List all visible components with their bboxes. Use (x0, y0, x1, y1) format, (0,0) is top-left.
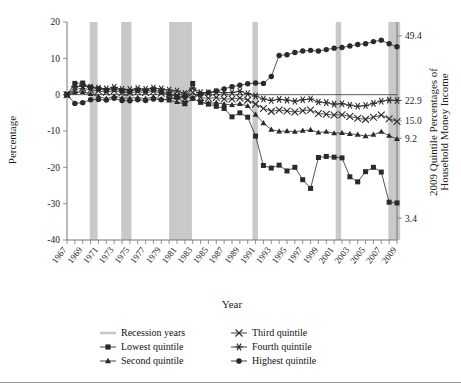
data-point (395, 200, 400, 205)
data-point (261, 163, 266, 168)
y-tick-label: 0 (55, 90, 60, 100)
data-point (355, 179, 360, 184)
data-point (378, 98, 385, 105)
data-point (362, 102, 369, 109)
data-point (245, 81, 250, 86)
data-point (300, 48, 305, 53)
legend-item-fourth-quintile[interactable]: Fourth quintile (231, 341, 312, 352)
data-point (370, 114, 377, 121)
legend-item-highest-quintile[interactable]: Highest quintile (231, 355, 317, 366)
data-point (316, 48, 321, 53)
right-axis-tick-label: 15.0 (405, 116, 422, 126)
data-point (324, 154, 329, 159)
recession-band-1 (90, 22, 98, 240)
data-point (268, 126, 274, 131)
recession-band-6 (388, 22, 400, 240)
data-point (378, 112, 385, 119)
x-tick-label: 1993 (254, 245, 273, 266)
data-point (159, 97, 164, 102)
data-point (339, 45, 344, 50)
x-tick-label: 1979 (144, 245, 163, 266)
data-point (300, 177, 305, 182)
data-point (292, 165, 297, 170)
data-point (307, 96, 314, 103)
y-tick-label: 20 (51, 17, 61, 27)
series-line (67, 83, 397, 203)
data-point (308, 127, 314, 132)
data-point (316, 155, 321, 160)
x-tick-label: 1985 (191, 245, 210, 266)
data-point (260, 105, 267, 112)
legend-label: Lowest quintile (121, 341, 184, 352)
data-point (370, 100, 377, 107)
recession-band-3 (169, 22, 192, 240)
legend-label: Second quintile (121, 355, 184, 366)
legend-marker-asterisk (235, 344, 243, 351)
data-point (324, 47, 329, 52)
x-tick-label: 1981 (160, 245, 179, 265)
y-tick-label: 10 (51, 54, 61, 64)
data-point (354, 103, 361, 110)
data-point (253, 80, 258, 85)
x-tick-label: 1975 (112, 245, 131, 266)
data-point (268, 108, 275, 115)
y-tick-label: -20 (47, 163, 60, 173)
data-point (111, 96, 116, 101)
y-axis-ticks: 20100-10-20-30-40 (47, 17, 67, 245)
data-point (386, 41, 391, 46)
x-axis-title: Year (222, 298, 243, 310)
x-tick-labels: 1967196919711973197519771979198119831985… (50, 245, 399, 266)
data-point (229, 84, 234, 89)
legend-item-recession-years[interactable]: Recession years (100, 327, 185, 338)
data-point (244, 97, 251, 104)
data-point (346, 113, 353, 120)
data-point (363, 169, 368, 174)
chart-legend: Recession yearsLowest quintileSecond qui… (100, 327, 317, 366)
x-tick-label: 2009 (380, 245, 399, 266)
x-tick-label: 1987 (207, 245, 226, 266)
data-point (363, 41, 368, 46)
data-point (237, 101, 243, 106)
data-point (292, 50, 297, 55)
right-axis-tick-label: 3.4 (405, 214, 417, 224)
legend-marker-circle (236, 358, 242, 364)
data-point (379, 170, 384, 175)
data-point (268, 97, 275, 104)
x-tick-label: 1989 (222, 245, 241, 266)
legend-item-second-quintile[interactable]: Second quintile (100, 355, 184, 366)
data-point (237, 83, 242, 88)
data-point (291, 98, 298, 105)
x-tick-label: 2007 (364, 245, 383, 266)
legend-label: Third quintile (252, 327, 308, 338)
data-point (88, 97, 93, 102)
data-point (245, 115, 250, 120)
legend-item-third-quintile[interactable]: Third quintile (231, 327, 308, 338)
data-point (284, 128, 290, 133)
legend-item-lowest-quintile[interactable]: Lowest quintile (100, 341, 184, 352)
right-axis-title: 2009 Quintile Percentages ofHousehold Mo… (427, 68, 450, 196)
series-layer (63, 37, 400, 205)
data-point (260, 96, 267, 103)
data-point (143, 98, 148, 103)
data-point (230, 114, 235, 119)
x-tick-label: 1977 (128, 245, 147, 266)
x-tick-label: 1997 (285, 245, 304, 266)
x-tick-label: 1995 (270, 245, 289, 266)
data-point (315, 99, 322, 106)
quintile-income-chart: 20100-10-20-30-40 49.422.915.09.23.4 196… (0, 0, 461, 385)
data-point (221, 86, 226, 91)
data-point (346, 102, 353, 109)
data-point (174, 95, 179, 100)
series-highest-quintile (64, 37, 399, 106)
data-point (276, 53, 281, 58)
data-point (308, 48, 313, 53)
data-point (277, 163, 282, 168)
legend-marker-square (105, 344, 110, 349)
data-point (236, 88, 243, 95)
data-point (269, 74, 274, 79)
right-axis-ticks: 49.422.915.09.23.4 (397, 31, 422, 223)
y-axis-title: Percentage (6, 116, 18, 164)
right-axis-tick-label: 9.2 (405, 134, 417, 144)
data-point (394, 44, 399, 49)
legend-label: Recession years (121, 327, 185, 338)
